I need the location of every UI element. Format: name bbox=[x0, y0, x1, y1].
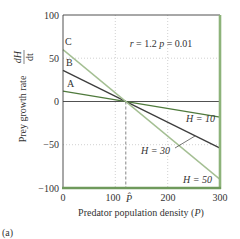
h10-label: H = 10 bbox=[185, 113, 215, 124]
h30-leader bbox=[175, 136, 195, 148]
x-axis-label: Predator population density (P) bbox=[78, 207, 204, 219]
ytick-m100: −100 bbox=[38, 183, 59, 194]
svg-text:Prey growth rate: Prey growth rate bbox=[17, 75, 28, 142]
xtick-200: 200 bbox=[161, 192, 176, 203]
ytick-50: 50 bbox=[49, 53, 59, 64]
xtick-100: 100 bbox=[106, 192, 121, 203]
svg-text:dt: dt bbox=[24, 53, 35, 61]
panel-label: (a) bbox=[2, 227, 13, 239]
series-B-label: B bbox=[66, 57, 73, 68]
h50-label: H = 50 bbox=[182, 174, 212, 185]
series-A-label: A bbox=[67, 78, 75, 89]
ytick-0: 0 bbox=[54, 96, 59, 107]
svg-text:dH: dH bbox=[12, 50, 23, 63]
ytick-100: 100 bbox=[44, 10, 59, 21]
ytick-m50: −50 bbox=[43, 139, 59, 150]
h30-label: H = 30 bbox=[140, 145, 170, 156]
series-B-line bbox=[63, 70, 220, 148]
series-C-label: C bbox=[65, 36, 72, 47]
xtick-300: 300 bbox=[213, 192, 228, 203]
y-axis-label: Prey growth rate dH dt bbox=[12, 50, 35, 142]
xtick-phat: P̂ bbox=[125, 192, 132, 204]
parameters-annotation: r = 1.2 p = 0.01 bbox=[130, 38, 193, 49]
xtick-0: 0 bbox=[61, 192, 66, 203]
chart: 100 50 0 −50 −100 0 100 P̂ 200 300 Preda… bbox=[0, 0, 240, 239]
